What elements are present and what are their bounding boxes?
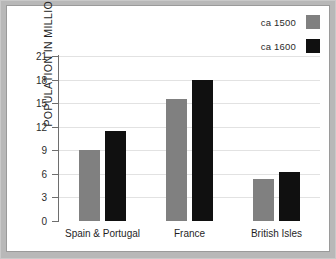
x-axis-category-label: France: [174, 228, 205, 239]
gridline: [59, 103, 320, 104]
y-axis-tick-label: 12: [17, 121, 47, 132]
y-axis-tick-label: 21: [17, 51, 47, 62]
y-axis-tick: [52, 221, 59, 222]
y-axis-tick-label: 0: [17, 216, 47, 227]
gridline: [59, 127, 320, 128]
gray-swatch-icon: [306, 15, 320, 29]
bar: [279, 172, 300, 221]
bar-chart-figure: ca 1500ca 1600 POPULATION IN MILLIONS 03…: [0, 0, 336, 259]
legend-item: ca 1500: [220, 12, 320, 32]
bar: [253, 179, 274, 221]
y-axis-tick-label: 3: [17, 192, 47, 203]
y-axis-tick: [52, 174, 59, 175]
y-axis-tick: [52, 150, 59, 151]
y-axis-tick-label: 9: [17, 145, 47, 156]
y-axis-tick: [52, 127, 59, 128]
y-axis-tick-label: 18: [17, 74, 47, 85]
y-axis-tick: [52, 103, 59, 104]
y-axis-tick-label: 15: [17, 98, 47, 109]
gridline: [59, 80, 320, 81]
plot-area: [59, 56, 320, 221]
gridline: [59, 56, 320, 57]
legend-item: ca 1600: [220, 36, 320, 56]
legend-label: ca 1500: [261, 17, 296, 28]
x-axis-category-label: Spain & Portugal: [65, 228, 140, 239]
y-axis-tick: [52, 56, 59, 57]
black-swatch-icon: [306, 39, 320, 53]
bar: [166, 99, 187, 221]
bar: [79, 150, 100, 221]
y-axis-tick: [52, 197, 59, 198]
bar: [105, 131, 126, 221]
x-axis-category-label: British Isles: [251, 228, 302, 239]
y-axis-tick-label: 6: [17, 168, 47, 179]
chart-legend: ca 1500ca 1600: [220, 12, 320, 60]
bar: [192, 80, 213, 221]
legend-label: ca 1600: [261, 41, 296, 52]
y-axis-tick: [52, 80, 59, 81]
